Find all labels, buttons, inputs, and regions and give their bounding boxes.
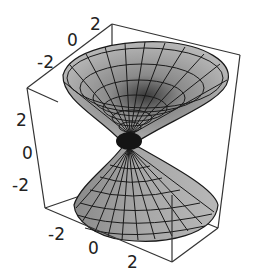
z-tick-2: 2 [16, 110, 27, 130]
x-tick-2: 2 [127, 252, 138, 272]
y-tick-neg2: -2 [37, 52, 54, 72]
y-tick-2: 2 [90, 14, 101, 34]
x-tick-neg2: -2 [48, 224, 65, 244]
hyperboloid-3d-plot: -2 0 2 2 0 -2 -2 0 2 [0, 0, 257, 279]
z-axis-ticks: 2 0 -2 [12, 110, 33, 195]
hyperboloid-lower-sheet [74, 145, 218, 241]
x-tick-0: 0 [88, 238, 99, 258]
y-tick-0: 0 [67, 30, 78, 50]
z-tick-neg2: -2 [12, 175, 29, 195]
hyperboloid-upper-sheet [63, 42, 228, 140]
hyperboloid-waist [116, 132, 142, 150]
z-tick-0: 0 [22, 143, 33, 163]
